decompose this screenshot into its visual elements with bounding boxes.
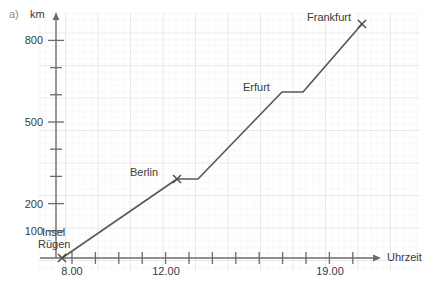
y-tick-label-100: 100 [14, 225, 43, 237]
part-label: a) [9, 8, 19, 20]
point-label-ruegen: Rügen [38, 238, 70, 250]
grid-background [38, 13, 420, 271]
x-axis-title: Uhrzeit [387, 251, 422, 263]
x-tick-label-12: 12.00 [150, 265, 182, 277]
point-label-berlin: Berlin [130, 166, 158, 178]
point-label-insel: Insel [42, 226, 65, 238]
y-tick-label-500: 500 [14, 116, 43, 128]
y-axis-title: km [30, 8, 45, 20]
y-tick-label-800: 800 [14, 34, 43, 46]
x-tick-label-19: 19.00 [314, 265, 346, 277]
x-tick-label-8: 8.00 [57, 265, 87, 277]
point-label-erfurt: Erfurt [243, 81, 270, 93]
y-tick-label-200: 200 [14, 198, 43, 210]
point-label-frankfurt: Frankfurt [307, 11, 351, 23]
